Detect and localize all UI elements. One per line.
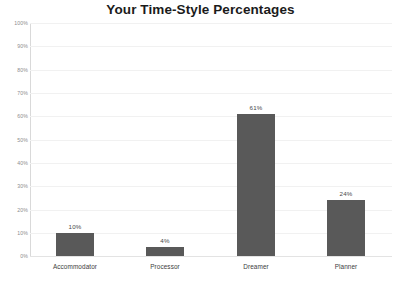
y-tick-label: 40% (2, 160, 28, 166)
category-label-dreamer: Dreamer (211, 262, 301, 271)
category-label-accommodator: Accommodator (30, 262, 120, 271)
y-axis-tick-labels: 100% 90% 80% 70% 60% 50% 40% 30% 20% 10%… (0, 0, 28, 288)
y-tick-label: 0% (2, 253, 28, 259)
y-tick-label: 20% (2, 207, 28, 213)
y-tick-label: 10% (2, 230, 28, 236)
category-label-planner: Planner (301, 262, 391, 271)
y-tick-label: 50% (2, 137, 28, 143)
y-tick-label: 100% (2, 20, 28, 26)
y-tick-label: 60% (2, 113, 28, 119)
y-tick-label: 70% (2, 90, 28, 96)
y-tick-label: 30% (2, 183, 28, 189)
bar-chart: Your Time-Style Percentages 100% 90% 80%… (0, 0, 401, 288)
category-label-processor: Processor (120, 262, 210, 271)
x-axis-category-labels: Accommodator Processor Dreamer Planner (30, 0, 392, 288)
y-tick-label: 90% (2, 43, 28, 49)
y-tick-label: 80% (2, 67, 28, 73)
